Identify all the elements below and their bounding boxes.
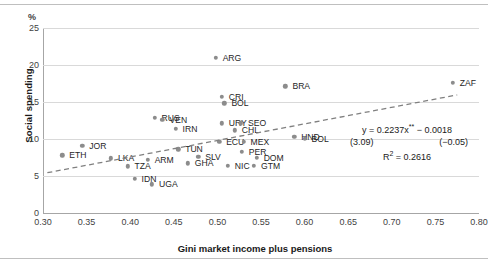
x-tick-0.45: 0.45 — [154, 217, 194, 227]
tstat-slope: (3.09) — [350, 137, 374, 149]
regression-tstats: (3.09) (−0.05) — [332, 137, 482, 149]
r-squared-text: R2 = 0.2616 — [383, 152, 431, 162]
x-tick-0.35: 0.35 — [67, 217, 107, 227]
y-tick-10: 10 — [5, 134, 39, 144]
x-axis-tick-labels: 0.300.350.400.450.500.550.600.650.700.75… — [43, 217, 479, 231]
x-axis-title: Gini market income plus pensions — [40, 243, 470, 254]
x-tick-0.40: 0.40 — [110, 217, 150, 227]
x-tick-0.50: 0.50 — [197, 217, 237, 227]
tstat-intercept: (−0.05) — [439, 137, 468, 149]
y-axis-tick-labels: 0510152025 — [3, 28, 39, 213]
x-tick-0.65: 0.65 — [328, 217, 368, 227]
y-tick-15: 15 — [5, 97, 39, 107]
x-axis-line — [43, 213, 479, 214]
y-tick-20: 20 — [5, 60, 39, 70]
regression-annotation: y = 0.2237x** − 0.0018 (3.09) (−0.05) R2… — [332, 121, 482, 164]
y-axis-unit-label: % — [28, 12, 36, 22]
x-tick-0.75: 0.75 — [415, 217, 455, 227]
x-tick-0.55: 0.55 — [241, 217, 281, 227]
y-tick-25: 25 — [5, 23, 39, 33]
chart-figure: % Social spending Gini market income plu… — [0, 0, 488, 271]
x-tick-0.80: 0.80 — [459, 217, 488, 227]
equation-text: y = 0.2237x** − 0.0018 — [362, 125, 452, 135]
y-tick-5: 5 — [5, 171, 39, 181]
top-divider-rule — [0, 4, 488, 5]
x-tick-0.30: 0.30 — [23, 217, 63, 227]
r-squared: R2 = 0.2616 — [332, 148, 482, 164]
bottom-divider-rule — [0, 258, 488, 259]
x-tick-0.70: 0.70 — [372, 217, 412, 227]
regression-equation: y = 0.2237x** − 0.0018 — [332, 121, 482, 137]
x-tick-0.60: 0.60 — [285, 217, 325, 227]
